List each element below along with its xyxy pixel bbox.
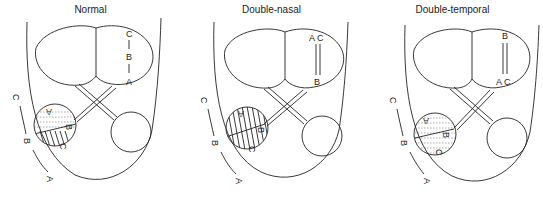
- diagram-double-nasal: A B C A C B C B A: [181, 0, 362, 198]
- svg-text:C: C: [58, 143, 68, 150]
- svg-text:B: B: [256, 127, 266, 133]
- svg-text:B: B: [441, 132, 451, 138]
- panel-double-temporal: Double-temporal A B C B A C C B A: [362, 0, 543, 198]
- svg-text:A C: A C: [309, 33, 324, 43]
- brain-lobes: [224, 29, 343, 88]
- right-disc: [111, 112, 151, 152]
- brain-lobes: [35, 26, 153, 86]
- svg-text:C: C: [11, 94, 21, 101]
- panel-normal: Normal A B C C B A C B A: [0, 0, 181, 198]
- svg-text:B: B: [64, 124, 74, 130]
- outline-curve: [214, 22, 348, 177]
- svg-text:B: B: [210, 140, 220, 146]
- svg-text:A: A: [423, 116, 429, 126]
- svg-text:B: B: [502, 31, 508, 41]
- svg-text:A: A: [126, 77, 132, 87]
- svg-text:A: A: [234, 178, 244, 184]
- svg-text:B: B: [314, 77, 320, 87]
- svg-text:C: C: [247, 146, 257, 153]
- svg-text:A: A: [238, 109, 244, 119]
- svg-text:C: C: [199, 97, 209, 104]
- diagram-normal: A B C C B A C B A: [0, 0, 181, 198]
- diagram-double-temporal: A B C B A C C B A: [362, 0, 543, 198]
- svg-text:C: C: [388, 97, 398, 104]
- svg-text:B: B: [126, 52, 132, 62]
- svg-text:A: A: [422, 178, 432, 184]
- svg-text:C: C: [434, 149, 444, 156]
- svg-text:A: A: [45, 176, 55, 182]
- svg-text:B: B: [22, 138, 32, 144]
- svg-text:B: B: [399, 140, 409, 146]
- svg-text:A C: A C: [496, 77, 511, 87]
- panel-double-nasal: Double-nasal A B C A C B C B A: [181, 0, 362, 198]
- svg-text:C: C: [126, 29, 133, 39]
- outline-curve: [27, 18, 161, 179]
- svg-text:A: A: [46, 107, 52, 117]
